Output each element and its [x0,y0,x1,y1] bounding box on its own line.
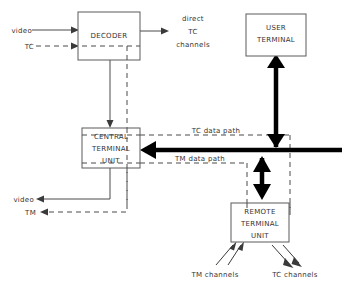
label-tc-data-path: TC data path [191,127,241,135]
label-video-in: video [11,27,32,35]
edge-user-terminal-link [267,54,285,148]
block-diagram: DECODER CENTRAL TERMINAL UNIT USER TERMI… [0,0,342,290]
user-terminal-box[interactable]: USER TERMINAL [246,14,306,56]
edge-main-bus [140,141,342,159]
user-terminal-label-1: USER [266,24,286,32]
label-direct-tc-channels-line2: TC [187,28,197,36]
user-terminal-label-2: TERMINAL [256,36,295,44]
decoder-box[interactable]: DECODER [78,12,140,60]
edge-tm-channels [216,242,244,266]
central-terminal-unit-label-3: UNIT [102,157,120,165]
label-tc-channels: TC channels [271,271,318,279]
label-tm-channels: TM channels [190,271,238,279]
remote-terminal-unit-label-1: REMOTE [244,208,275,216]
edge-decoder-to-ctu [107,60,114,128]
remote-terminal-unit-label-3: UNIT [251,232,269,240]
central-terminal-unit-box[interactable]: CENTRAL TERMINAL UNIT [82,128,140,168]
edge-tc-channels [272,245,302,268]
label-video-out: video [13,196,34,204]
user-terminal-box-rect [246,14,306,56]
label-tc-in: TC [24,43,34,51]
edge-video-in [32,27,79,34]
edge-direct-tc-channels [140,28,169,35]
label-direct-tc-channels-line3: channels [176,41,210,49]
central-terminal-unit-label-1: CENTRAL [94,133,128,141]
edge-remote-terminal-link [253,156,271,200]
label-tm-data-path: TM data path [174,155,225,163]
decoder-box-label-1: DECODER [91,32,128,40]
remote-terminal-unit-label-2: TERMINAL [240,220,279,228]
central-terminal-unit-label-2: TERMINAL [91,145,130,153]
edge-video-out [36,168,110,203]
label-direct-tc-channels-line1: direct [182,15,204,23]
label-tm-out: TM [24,209,36,217]
remote-terminal-unit-box[interactable]: REMOTE TERMINAL UNIT [231,203,289,242]
edge-tm-out [40,168,127,216]
diagram-canvas: DECODER CENTRAL TERMINAL UNIT USER TERMI… [0,0,342,290]
